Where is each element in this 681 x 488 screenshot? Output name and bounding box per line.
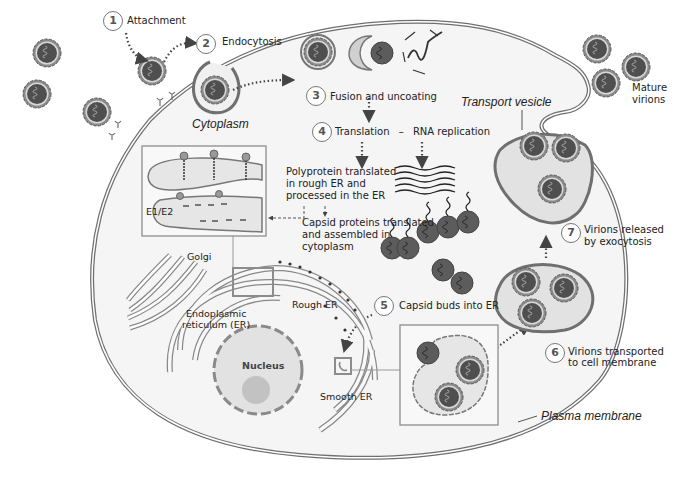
capsid-label-line1: Capsid proteins translated xyxy=(302,217,434,229)
polyprotein-label-line2: in rough ER and xyxy=(286,178,366,190)
e1e2-label: E1/E2 xyxy=(146,206,173,218)
polyprotein-label-line3: processed in the ER xyxy=(286,190,385,202)
step-6-marker: 6 xyxy=(545,343,565,363)
capsid-label-line3: cytoplasm xyxy=(302,241,354,253)
plasma-membrane-label: Plasma membrane xyxy=(541,410,642,422)
step-3-marker: 3 xyxy=(306,86,326,106)
step-7-marker: 7 xyxy=(561,223,581,243)
step-4-label: Translation – RNA replication xyxy=(335,126,490,138)
step-4-separator: – xyxy=(399,126,404,137)
step-1-label: Attachment xyxy=(127,15,186,27)
step-2-marker: 2 xyxy=(196,34,216,54)
step-6-label-line2: to cell membrane xyxy=(568,357,656,369)
mature-virions-label-line1: Mature xyxy=(632,82,667,94)
step-2-label: Endocytosis xyxy=(222,36,282,48)
polyprotein-label-line1: Polyprotein translated xyxy=(286,166,396,178)
transport-vesicle-label: Transport vesicle xyxy=(461,96,551,108)
endocytosis-pit xyxy=(193,62,239,113)
er-budding-inset xyxy=(400,325,498,425)
step-5-label: Capsid buds into ER xyxy=(399,300,499,312)
step-1-marker: 1 xyxy=(103,11,123,31)
cytoplasm-label: Cytoplasm xyxy=(192,118,249,130)
step-7-label-line1: Virions released xyxy=(584,224,664,236)
step-4-marker: 4 xyxy=(312,122,332,142)
nucleus-label: Nucleus xyxy=(242,360,284,372)
step-5-marker: 5 xyxy=(374,296,394,316)
rna-replication-label: RNA replication xyxy=(413,126,490,137)
translation-label: Translation xyxy=(335,126,390,137)
er-label-line2: reticulum (ER) xyxy=(182,319,250,331)
mature-virions-label-line2: virions xyxy=(632,94,665,106)
capsid-label-line2: and assembled in xyxy=(302,229,390,241)
rough-er-label: Rough ER xyxy=(292,299,338,311)
step-3-label: Fusion and uncoating xyxy=(330,91,437,103)
step-7-label-line2: by exocytosis xyxy=(584,236,652,248)
smooth-er-label: Smooth ER xyxy=(320,391,372,403)
golgi-label: Golgi xyxy=(187,251,211,263)
